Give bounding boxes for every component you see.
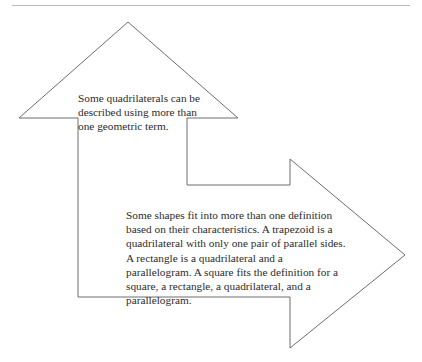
page-canvas: Some quadrilaterals can be described usi… <box>0 0 422 362</box>
text-block-lower: Some shapes fit into more than one defin… <box>126 208 346 307</box>
bent-arrow-diagram <box>0 0 422 362</box>
text-block-upper: Some quadrilaterals can be described usi… <box>78 91 213 134</box>
